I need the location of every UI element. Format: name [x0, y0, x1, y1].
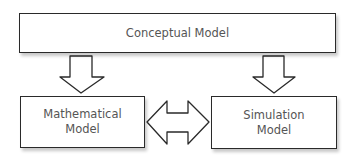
- simulation-model-label-line1: Simulation: [243, 108, 304, 123]
- down-arrow-right-icon: [253, 56, 295, 93]
- down-arrow-left-icon: [60, 56, 104, 93]
- mathematical-model-label-line1: Mathematical: [43, 107, 121, 122]
- simulation-model-label-line2: Model: [243, 123, 304, 138]
- simulation-model-box: Simulation Model: [211, 96, 337, 149]
- mathematical-model-label-line2: Model: [43, 122, 121, 137]
- modeling-diagram: Conceptual Model Mathematical Model Simu…: [0, 0, 359, 161]
- mathematical-model-box: Mathematical Model: [20, 96, 145, 148]
- bidirectional-arrow-icon: [147, 101, 209, 144]
- conceptual-model-box: Conceptual Model: [19, 13, 336, 53]
- conceptual-model-label: Conceptual Model: [126, 26, 229, 41]
